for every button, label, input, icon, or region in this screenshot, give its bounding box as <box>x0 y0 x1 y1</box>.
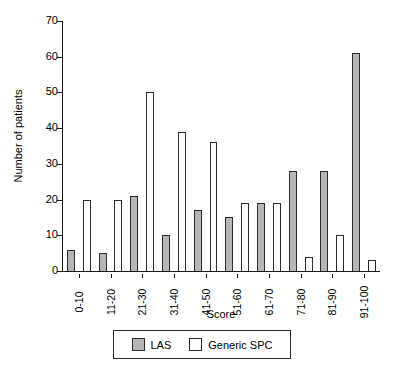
bar-group <box>79 21 95 271</box>
legend-item-generic-spc: Generic SPC <box>189 338 272 351</box>
plot-area: 010203040506070 <box>62 21 380 271</box>
y-tick-label: 50 <box>46 85 58 97</box>
x-tick-mark <box>269 274 270 278</box>
x-tick-mark <box>301 274 302 278</box>
x-tick-mark <box>111 274 112 278</box>
bar-generic-spc-0-10 <box>83 200 91 271</box>
x-tick-mark <box>174 274 175 278</box>
bar-generic-spc-91-100 <box>368 260 376 271</box>
bar-group <box>158 21 174 271</box>
bar-generic-spc-81-90 <box>336 235 344 271</box>
bar-group <box>253 21 269 271</box>
bar-group <box>63 21 79 271</box>
x-axis-title: Score <box>62 308 380 320</box>
bar-group <box>174 21 190 271</box>
legend-swatch-las-icon <box>132 338 145 351</box>
bar-generic-spc-71-80 <box>305 257 313 271</box>
y-tick-label: 10 <box>46 228 58 240</box>
bar-group <box>301 21 317 271</box>
bar-group <box>206 21 222 271</box>
x-tick-mark <box>79 274 80 278</box>
bar-group <box>221 21 237 271</box>
bar-group <box>317 21 333 271</box>
bar-las-71-80 <box>289 171 297 271</box>
bar-generic-spc-21-30 <box>146 92 154 271</box>
bar-las-91-100 <box>352 53 360 271</box>
legend-swatch-generic-spc-icon <box>189 338 202 351</box>
bar-generic-spc-31-40 <box>178 132 186 271</box>
y-tick-label: 40 <box>46 121 58 133</box>
bar-las-51-60 <box>225 217 233 271</box>
bar-group <box>95 21 111 271</box>
bar-group <box>348 21 364 271</box>
bar-group <box>237 21 253 271</box>
bar-las-21-30 <box>130 196 138 271</box>
bar-las-41-50 <box>194 210 202 271</box>
bar-las-81-90 <box>320 171 328 271</box>
bar-group <box>142 21 158 271</box>
y-tick-label: 0 <box>52 264 58 276</box>
bar-group <box>364 21 380 271</box>
x-axis-line <box>62 271 380 272</box>
bar-chart-figure: Number of patients 010203040506070 0-101… <box>0 0 396 371</box>
bar-group <box>269 21 285 271</box>
x-tick-mark <box>206 274 207 278</box>
bar-las-31-40 <box>162 235 170 271</box>
legend-item-las: LAS <box>132 338 172 351</box>
chart-legend: LAS Generic SPC <box>113 330 291 359</box>
legend-label-generic-spc: Generic SPC <box>208 339 272 351</box>
bar-group <box>111 21 127 271</box>
bar-las-0-10 <box>67 250 75 271</box>
bar-series-container <box>63 21 380 271</box>
bar-generic-spc-51-60 <box>241 203 249 271</box>
y-tick-label: 30 <box>46 157 58 169</box>
bar-group <box>126 21 142 271</box>
y-tick-label: 20 <box>46 193 58 205</box>
x-tick-mark <box>142 274 143 278</box>
x-tick-mark <box>332 274 333 278</box>
bar-generic-spc-41-50 <box>210 142 218 271</box>
bar-group <box>285 21 301 271</box>
y-axis-title: Number of patients <box>12 56 24 216</box>
bar-group <box>332 21 348 271</box>
x-tick-mark <box>364 274 365 278</box>
bar-generic-spc-11-20 <box>114 200 122 271</box>
legend-label-las: LAS <box>151 339 172 351</box>
bar-las-11-20 <box>99 253 107 271</box>
y-tick-label: 60 <box>46 50 58 62</box>
x-tick-mark <box>237 274 238 278</box>
bar-las-61-70 <box>257 203 265 271</box>
y-tick-label: 70 <box>46 14 58 26</box>
bar-group <box>190 21 206 271</box>
bar-generic-spc-61-70 <box>273 203 281 271</box>
